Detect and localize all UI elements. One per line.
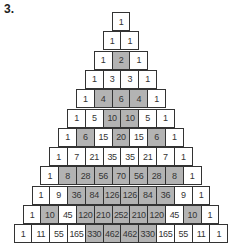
triangle-cell: 1 — [120, 31, 139, 50]
triangle-cell: 10 — [183, 205, 202, 224]
triangle-cell: 1 — [147, 89, 166, 108]
triangle-cell: 1 — [32, 186, 51, 205]
triangle-cell: 45 — [58, 205, 77, 224]
triangle-cell: 1 — [129, 51, 148, 70]
triangle-cell: 28 — [147, 166, 166, 185]
triangle-cell: 3 — [103, 70, 122, 89]
triangle-cell: 120 — [76, 205, 95, 224]
triangle-cell: 5 — [138, 109, 157, 128]
triangle-row: 11 — [103, 31, 140, 50]
triangle-cell: 45 — [165, 205, 184, 224]
triangle-cell: 1 — [201, 205, 220, 224]
triangle-cell: 56 — [94, 166, 113, 185]
triangle-cell: 15 — [94, 128, 113, 147]
triangle-row: 14641 — [76, 89, 166, 108]
triangle-cell: 1 — [156, 109, 175, 128]
triangle-row: 121 — [94, 51, 148, 70]
triangle-cell: 10 — [40, 205, 59, 224]
triangle-cell: 462 — [103, 224, 122, 243]
triangle-cell: 1 — [58, 128, 77, 147]
triangle-cell: 21 — [85, 147, 104, 166]
triangle-cell: 1 — [67, 109, 86, 128]
triangle-cell: 126 — [103, 186, 122, 205]
triangle-cell: 3 — [120, 70, 139, 89]
triangle-cell: 36 — [156, 186, 175, 205]
triangle-row: 193684126126843691 — [32, 186, 211, 205]
triangle-cell: 462 — [120, 224, 139, 243]
triangle-cell: 1 — [94, 51, 113, 70]
triangle-cell: 70 — [112, 166, 131, 185]
triangle-cell: 84 — [138, 186, 157, 205]
triangle-cell: 35 — [103, 147, 122, 166]
triangle-cell: 1 — [23, 205, 42, 224]
triangle-cell: 20 — [112, 128, 131, 147]
triangle-cell: 1 — [209, 224, 228, 243]
triangle-cell: 1 — [49, 147, 68, 166]
triangle-cell: 1 — [174, 147, 193, 166]
triangle-row: 172135352171 — [49, 147, 192, 166]
triangle-cell: 6 — [76, 128, 95, 147]
triangle-cell: 210 — [94, 205, 113, 224]
triangle-cell: 1 — [103, 31, 122, 50]
triangle-cell: 6 — [112, 89, 131, 108]
triangle-cell: 55 — [49, 224, 68, 243]
triangle-cell: 2 — [112, 51, 131, 70]
triangle-cell: 330 — [85, 224, 104, 243]
triangle-cell: 1 — [138, 70, 157, 89]
triangle-cell: 126 — [120, 186, 139, 205]
triangle-cell: 1 — [76, 89, 95, 108]
triangle-cell: 21 — [138, 147, 157, 166]
triangle-cell: 10 — [103, 109, 122, 128]
triangle-row: 18285670562881 — [40, 166, 201, 185]
triangle-row: 1115516533046246233016555111 — [14, 224, 229, 243]
triangle-row: 1 — [112, 12, 131, 31]
pascals-triangle: 1111211331146411510105116152015611721353… — [0, 0, 243, 248]
triangle-cell: 252 — [112, 205, 131, 224]
triangle-cell: 1 — [14, 224, 33, 243]
triangle-cell: 84 — [85, 186, 104, 205]
triangle-row: 1331 — [85, 70, 157, 89]
triangle-cell: 5 — [85, 109, 104, 128]
triangle-cell: 35 — [120, 147, 139, 166]
triangle-cell: 11 — [192, 224, 211, 243]
triangle-cell: 7 — [156, 147, 175, 166]
triangle-cell: 11 — [31, 224, 50, 243]
triangle-cell: 120 — [147, 205, 166, 224]
triangle-cell: 165 — [156, 224, 175, 243]
triangle-cell: 210 — [129, 205, 148, 224]
triangle-row: 1104512021025221012045101 — [23, 205, 220, 224]
triangle-cell: 1 — [85, 70, 104, 89]
triangle-cell: 56 — [129, 166, 148, 185]
triangle-cell: 15 — [129, 128, 148, 147]
triangle-cell: 7 — [67, 147, 86, 166]
triangle-cell: 9 — [174, 186, 193, 205]
triangle-cell: 36 — [67, 186, 86, 205]
triangle-cell: 330 — [138, 224, 157, 243]
triangle-cell: 8 — [165, 166, 184, 185]
triangle-row: 15101051 — [67, 109, 175, 128]
triangle-row: 1615201561 — [58, 128, 184, 147]
triangle-cell: 4 — [94, 89, 113, 108]
triangle-cell: 1 — [183, 166, 202, 185]
triangle-cell: 9 — [49, 186, 68, 205]
triangle-cell: 1 — [165, 128, 184, 147]
triangle-cell: 6 — [147, 128, 166, 147]
triangle-cell: 55 — [174, 224, 193, 243]
triangle-cell: 28 — [76, 166, 95, 185]
triangle-cell: 4 — [129, 89, 148, 108]
triangle-cell: 10 — [120, 109, 139, 128]
triangle-cell: 8 — [58, 166, 77, 185]
triangle-cell: 1 — [112, 12, 131, 31]
triangle-cell: 1 — [192, 186, 211, 205]
triangle-cell: 165 — [67, 224, 86, 243]
triangle-cell: 1 — [40, 166, 59, 185]
